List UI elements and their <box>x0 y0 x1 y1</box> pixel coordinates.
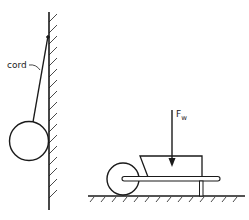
force-label-subscript: w <box>181 114 187 122</box>
handle-frame <box>122 177 220 182</box>
cord <box>33 36 48 122</box>
force-arrow-head <box>169 158 176 167</box>
leg <box>200 181 204 196</box>
wall-ball-figure <box>10 12 58 210</box>
wheelbarrow-figure <box>88 110 245 202</box>
cord-anchor <box>47 36 50 39</box>
ground-hatching <box>90 197 237 202</box>
wall-hatching <box>49 14 57 198</box>
cord-label: cord <box>7 60 27 70</box>
cord-leader-line <box>29 65 40 70</box>
force-label: Fw <box>176 109 187 122</box>
physics-diagram: cord Fw <box>0 0 249 220</box>
ball <box>10 122 49 161</box>
